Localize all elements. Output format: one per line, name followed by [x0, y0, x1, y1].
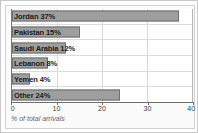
bar-label-jordan: Jordan 37%: [14, 12, 55, 21]
x-tick-label-30: 30: [144, 105, 152, 112]
bar-label-lebanon: Lebanon 8%: [14, 59, 57, 68]
bar-row: Jordan 37%: [12, 9, 192, 25]
bar-row: Saudi Arabia 12%: [12, 40, 192, 56]
x-tick-label-40: 40: [187, 105, 195, 112]
bar-row: Lebanon 8%: [12, 56, 192, 72]
bar-rows: Jordan 37% Pakistan 15% Saudi Arabia 12%…: [12, 9, 192, 102]
bar-label-pakistan: Pakistan 15%: [14, 28, 61, 37]
x-tick-labels: 0 10 20 30 40: [11, 105, 193, 115]
bar-row: Other 24%: [12, 87, 192, 102]
x-axis-line: [11, 102, 193, 103]
bar-label-other: Other 24%: [14, 90, 50, 99]
x-tick-label-10: 10: [53, 105, 61, 112]
x-tick-label-0: 0: [11, 105, 15, 112]
x-tick-label-20: 20: [98, 105, 106, 112]
bar-row: Pakistan 15%: [12, 25, 192, 41]
bar-row: Yemen 4%: [12, 72, 192, 88]
plot-frame: Jordan 37% Pakistan 15% Saudi Arabia 12%…: [5, 5, 195, 129]
x-axis-caption: % of total arrivals: [11, 115, 65, 122]
bar-label-yemen: Yemen 4%: [14, 75, 50, 84]
plot-area: Jordan 37% Pakistan 15% Saudi Arabia 12%…: [11, 9, 193, 102]
chart-figure: Jordan 37% Pakistan 15% Saudi Arabia 12%…: [0, 0, 198, 133]
bar-label-saudi-arabia: Saudi Arabia 12%: [14, 43, 75, 52]
